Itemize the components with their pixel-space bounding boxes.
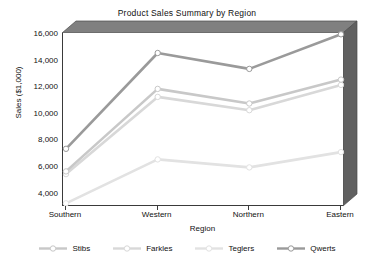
legend-label: Farkles (146, 244, 172, 253)
legend-label: Teglers (228, 244, 254, 253)
y-axis-tick-label: 4,000 (14, 188, 58, 197)
chart-legend: StibsFarklesTeglersQwerts (0, 244, 374, 253)
data-point-marker (247, 108, 252, 113)
legend-item-farkles[interactable]: Farkles (112, 244, 172, 253)
x-axis-tick-label: Eastern (300, 210, 374, 219)
chart-title: Product Sales Summary by Region (0, 8, 374, 18)
data-point-marker (155, 157, 160, 162)
data-point-marker (247, 101, 252, 106)
series-teglers (63, 149, 343, 206)
data-point-marker (247, 165, 252, 170)
legend-item-qwerts[interactable]: Qwerts (276, 244, 335, 253)
legend-marker-icon (194, 244, 224, 253)
series-line (66, 80, 341, 172)
y-axis-title: Sales ($1,000) (14, 45, 23, 141)
x-axis-tick-label: Western (117, 210, 197, 219)
data-point-marker (155, 50, 160, 55)
data-point-marker (338, 32, 343, 37)
legend-label: Qwerts (310, 244, 335, 253)
series-lines (63, 33, 344, 206)
legend-label: Stibs (72, 244, 90, 253)
data-point-marker (247, 66, 252, 71)
legend-marker-icon (38, 244, 68, 253)
data-point-marker (338, 149, 343, 154)
legend-item-stibs[interactable]: Stibs (38, 244, 90, 253)
x-axis-title: Region (62, 224, 343, 233)
series-line (66, 152, 341, 203)
series-qwerts (63, 32, 343, 152)
x-axis-tick-label: Southern (25, 210, 105, 219)
legend-item-teglers[interactable]: Teglers (194, 244, 254, 253)
x-axis-tick-label: Northern (208, 210, 288, 219)
legend-marker-icon (112, 244, 142, 253)
data-point-marker (63, 146, 68, 151)
legend-marker-icon (276, 244, 306, 253)
data-point-marker (338, 82, 343, 87)
plot-frame (62, 33, 343, 206)
plot-area (62, 33, 343, 206)
y-axis-tick-label: 16,000 (14, 29, 58, 38)
line-chart: Product Sales Summary by Region 4,0006,0… (0, 0, 374, 270)
y-axis-tick-label: 6,000 (14, 162, 58, 171)
data-point-marker (63, 169, 68, 174)
series-line (66, 85, 341, 174)
data-point-marker (155, 86, 160, 91)
data-point-marker (338, 77, 343, 82)
data-point-marker (155, 94, 160, 99)
